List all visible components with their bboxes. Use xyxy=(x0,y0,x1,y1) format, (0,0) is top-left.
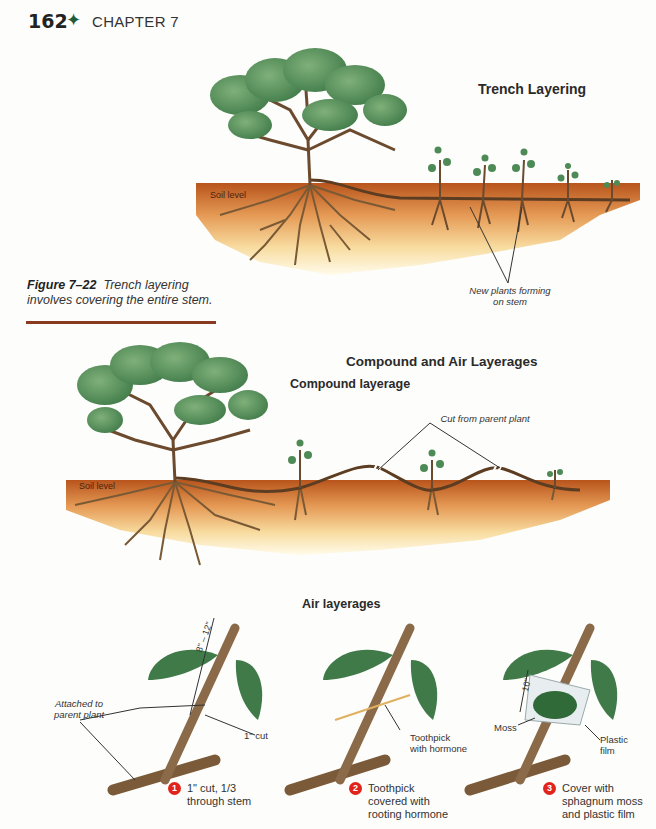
compound-subtitle: Compound layerage xyxy=(290,377,410,391)
compound-soil-label: Soil level xyxy=(79,481,115,491)
new-plants-callout: New plants forming on stem xyxy=(455,285,565,307)
moss-label: Moss xyxy=(494,722,517,733)
figure-caption: Figure 7–22 Trench layering involves cov… xyxy=(27,278,227,308)
trench-tree-canopy xyxy=(210,48,407,139)
air-panel-2 xyxy=(290,628,437,790)
compound-air-title: Compound and Air Layerages xyxy=(346,354,538,369)
step-2-badge: 2 xyxy=(349,782,362,795)
cut-label: 1" cut xyxy=(244,730,268,741)
trench-soil-label: Soil level xyxy=(210,190,246,200)
attached-callout: Attached to parent plant xyxy=(44,698,114,720)
toothpick-callout: Toothpick with hormone xyxy=(410,732,467,754)
step-1: 1 1" cut, 1/3 through stem xyxy=(168,782,251,808)
trench-title: Trench Layering xyxy=(478,81,586,97)
step-1-badge: 1 xyxy=(168,782,181,795)
caption-divider xyxy=(26,321,216,324)
step-3-badge: 3 xyxy=(543,782,556,795)
step-3: 3 Cover with sphagnum moss and plastic f… xyxy=(543,782,643,821)
air-panel-3 xyxy=(470,628,617,790)
figure-number: Figure 7–22 xyxy=(27,278,96,292)
compound-tree-canopy xyxy=(77,342,268,433)
step-2: 2 Toothpick covered with rooting hormone xyxy=(349,782,448,821)
compound-soil xyxy=(66,480,610,555)
cut-callout: Cut from parent plant xyxy=(430,413,540,424)
plastic-film-label: Plastic film xyxy=(600,734,628,756)
air-subtitle: Air layerages xyxy=(302,597,381,611)
